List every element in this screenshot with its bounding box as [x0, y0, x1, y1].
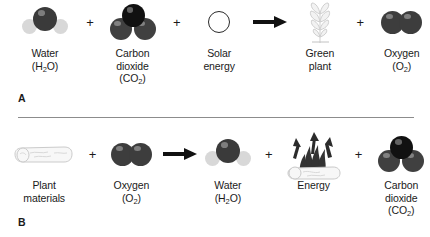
plus-operator: +: [255, 132, 283, 176]
oxygen-atom: [33, 7, 57, 31]
water-molecule-icon: [12, 0, 78, 44]
green-plant-icon: [293, 0, 348, 44]
panel-label-a: A: [18, 92, 26, 104]
burning-log-flame-icon: [283, 132, 345, 176]
term-label-plant-materials: Plant materials: [23, 179, 65, 204]
sun-circle-icon: [191, 0, 247, 44]
term-label-green-plant: Green plant: [306, 47, 335, 72]
oxygen-atom: [399, 11, 422, 34]
plus-operator: +: [347, 0, 373, 44]
oxygen-molecule-icon: [374, 0, 430, 44]
formula-o2: (O2): [384, 60, 420, 75]
formula-co2: (CO2): [116, 72, 150, 87]
formula-h2o: (H2O): [31, 60, 58, 75]
water-molecule-icon: [201, 132, 255, 176]
carbon-dioxide-molecule-icon: [372, 132, 430, 176]
oxygen-molecule-icon: [105, 132, 159, 176]
term-green-plant: Green plant: [293, 0, 348, 72]
equation-respiration: Plant materials + Oxygen (O2): [0, 132, 430, 219]
term-label-energy: Energy: [297, 179, 330, 192]
term-oxygen: Oxygen (O2): [374, 0, 430, 74]
right-arrow-icon: [158, 132, 201, 176]
carbon-atom: [122, 4, 145, 27]
formula-co2: (CO2): [384, 204, 418, 219]
term-label-oxygen: Oxygen (O2): [384, 47, 420, 74]
plus-operator: +: [163, 0, 191, 44]
term-carbon-dioxide: Carbon dioxide (CO2): [102, 0, 162, 87]
term-energy: Energy: [283, 132, 345, 192]
carbon-dioxide-molecule-icon: [102, 0, 162, 44]
right-arrow-icon: [247, 0, 292, 44]
panel-label-b: B: [18, 216, 26, 228]
term-water: Water (H2O): [12, 0, 78, 74]
term-label-oxygen: Oxygen (O2): [114, 179, 150, 206]
panel-photosynthesis: Water (H2O) + Carbon dioxide (CO2) +: [0, 0, 430, 110]
term-label-carbon-dioxide: Carbon dioxide (CO2): [116, 47, 150, 87]
term-oxygen: Oxygen (O2): [105, 132, 159, 206]
log-icon: [8, 132, 80, 176]
plus-operator: +: [80, 132, 104, 176]
plus-operator: +: [78, 0, 102, 44]
term-label-water: Water (H2O): [31, 47, 58, 74]
formula-h2o: (H2O): [214, 192, 241, 207]
panel-respiration: Plant materials + Oxygen (O2): [0, 132, 430, 237]
term-solar-energy: Solar energy: [191, 0, 247, 72]
term-carbon-dioxide: Carbon dioxide (CO2): [372, 132, 430, 219]
equation-photosynthesis: Water (H2O) + Carbon dioxide (CO2) +: [0, 0, 430, 87]
oxygen-atom: [129, 143, 152, 166]
oxygen-atom: [216, 139, 240, 163]
term-label-solar-energy: Solar energy: [203, 47, 235, 72]
panel-divider: [18, 117, 414, 118]
formula-o2: (O2): [114, 192, 150, 207]
term-label-water: Water (H2O): [214, 179, 241, 206]
term-water: Water (H2O): [201, 132, 255, 206]
plus-operator: +: [345, 132, 373, 176]
term-label-carbon-dioxide: Carbon dioxide (CO2): [384, 179, 418, 219]
term-plant-materials: Plant materials: [8, 132, 80, 204]
